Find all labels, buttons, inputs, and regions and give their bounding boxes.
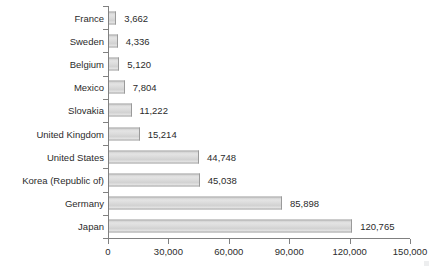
bar: [109, 57, 119, 70]
table-row: France3,662: [0, 6, 432, 29]
category-label: Mexico: [0, 82, 104, 93]
bar-value-label: 44,748: [207, 151, 236, 162]
bar-group: 11,222: [109, 104, 168, 117]
bar: [109, 150, 199, 163]
y-axis-tick: [103, 29, 109, 30]
y-axis-tick: [103, 192, 109, 193]
category-label: Belgium: [0, 58, 104, 69]
bar: [109, 220, 352, 233]
y-axis-tick: [103, 145, 109, 146]
bar: [109, 11, 116, 24]
x-axis-tick: [410, 239, 411, 244]
category-label: Korea (Republic of): [0, 174, 104, 185]
corner-artifact: [424, 261, 429, 266]
category-label: Germany: [0, 198, 104, 209]
bar-value-label: 85,898: [290, 198, 319, 209]
bar: [109, 197, 282, 210]
y-axis-tick: [103, 122, 109, 123]
bar-chart: France3,662Sweden4,336Belgium5,120Mexico…: [0, 0, 432, 269]
y-axis-tick: [103, 52, 109, 53]
category-label: United Kingdom: [0, 128, 104, 139]
category-label: Sweden: [0, 35, 104, 46]
bar-group: 44,748: [109, 150, 236, 163]
table-row: Japan120,765: [0, 215, 432, 238]
category-label: United States: [0, 151, 104, 162]
table-row: Mexico7,804: [0, 76, 432, 99]
y-axis-tick: [103, 168, 109, 169]
table-row: Germany85,898: [0, 192, 432, 215]
bar-value-label: 5,120: [127, 58, 151, 69]
bar-group: 5,120: [109, 57, 151, 70]
table-row: United Kingdom15,214: [0, 122, 432, 145]
x-axis-tick-label: 90,000: [275, 246, 304, 257]
bar: [109, 81, 125, 94]
bar-value-label: 45,038: [208, 174, 237, 185]
x-axis-tick: [229, 239, 230, 244]
table-row: Slovakia11,222: [0, 99, 432, 122]
bar-group: 3,662: [109, 11, 148, 24]
bar-group: 85,898: [109, 197, 319, 210]
x-axis-tick-label: 120,000: [332, 246, 366, 257]
x-axis-tick: [350, 239, 351, 244]
category-label: Slovakia: [0, 105, 104, 116]
y-axis-tick: [103, 99, 109, 100]
bar-value-label: 3,662: [124, 12, 148, 23]
y-axis-tick: [103, 76, 109, 77]
bar-value-label: 7,804: [133, 82, 157, 93]
bar-value-label: 120,765: [360, 221, 394, 232]
bar-group: 120,765: [109, 220, 394, 233]
x-axis-line: [108, 238, 410, 239]
x-axis-tick-label: 0: [105, 246, 110, 257]
x-axis-tick: [289, 239, 290, 244]
x-axis-tick: [168, 239, 169, 244]
bar-group: 7,804: [109, 81, 156, 94]
bar: [109, 34, 118, 47]
table-row: Belgium5,120: [0, 52, 432, 75]
x-axis-tick: [108, 239, 109, 244]
bar: [109, 104, 132, 117]
bar-value-label: 4,336: [126, 35, 150, 46]
category-label: Japan: [0, 221, 104, 232]
x-axis-tick-label: 60,000: [214, 246, 243, 257]
bar-group: 4,336: [109, 34, 150, 47]
bar-group: 45,038: [109, 173, 237, 186]
table-row: Korea (Republic of)45,038: [0, 168, 432, 191]
bar-value-label: 15,214: [148, 128, 177, 139]
bar-group: 15,214: [109, 127, 177, 140]
bar: [109, 127, 140, 140]
category-label: France: [0, 12, 104, 23]
table-row: United States44,748: [0, 145, 432, 168]
y-axis-tick: [103, 6, 109, 7]
table-row: Sweden4,336: [0, 29, 432, 52]
y-axis-tick: [103, 215, 109, 216]
bar: [109, 173, 200, 186]
bar-value-label: 11,222: [140, 105, 168, 116]
x-axis-tick-label: 150,000: [393, 246, 427, 257]
x-axis-tick-label: 30,000: [154, 246, 183, 257]
